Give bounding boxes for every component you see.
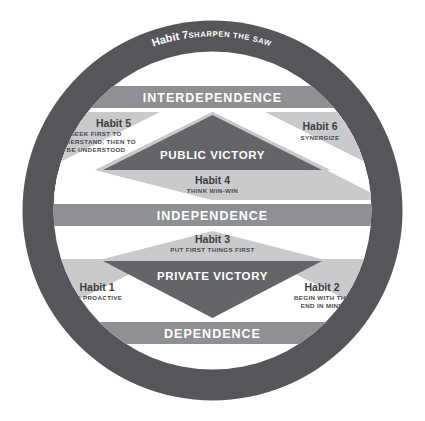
habit-3-line-1: PUT FIRST THINGS FIRST <box>170 246 254 253</box>
habit-1-number: Habit 1 <box>79 281 114 293</box>
diagram-canvas: Habit 7 SHARPEN THE SAW INTERDEPENDENCE <box>0 0 425 421</box>
habit-5-line-3: BE UNDERSTOOD <box>67 146 126 153</box>
habit-2-line-1: BEGIN WITH THE <box>294 294 350 301</box>
habit-6-number: Habit 6 <box>302 120 337 132</box>
habit-2-line-2: END IN MIND <box>301 302 344 309</box>
public-victory-label: PUBLIC VICTORY <box>160 149 265 161</box>
habit-2-number: Habit 2 <box>304 281 339 293</box>
habit-4-number: Habit 4 <box>195 174 230 186</box>
private-victory-label: PRIVATE VICTORY <box>157 270 268 282</box>
habit-6-line-1: SYNERGIZE <box>301 134 340 141</box>
stage-label-interdependence: INTERDEPENDENCE <box>143 91 282 105</box>
habit-5-number: Habit 5 <box>96 117 131 129</box>
stage-independence: INDEPENDENCE <box>40 204 385 226</box>
stage-label-independence: INDEPENDENCE <box>157 209 268 223</box>
habit-5-line-1: SEEK FIRST TO <box>70 130 121 137</box>
zone-public-victory: Habit 5 SEEK FIRST TO UNDERSTAND, THEN T… <box>40 112 385 200</box>
habit-3-number: Habit 3 <box>195 233 230 245</box>
stage-label-dependence: DEPENDENCE <box>164 327 261 341</box>
maturity-continuum-diagram: Habit 7 SHARPEN THE SAW INTERDEPENDENCE <box>0 0 425 421</box>
habit-6: Habit 6 SYNERGIZE <box>301 120 340 141</box>
habit-4-line-1: THINK WIN-WIN <box>187 187 238 194</box>
private-victory-seam <box>40 259 385 261</box>
